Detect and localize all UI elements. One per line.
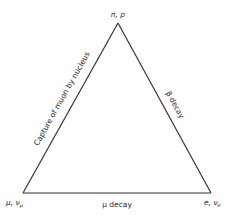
vertex-top-label: n, p xyxy=(111,10,126,19)
vertex-bottom-left-label: μ, νμ xyxy=(5,198,23,209)
edge-right-label: β decay xyxy=(164,90,186,121)
edge-right xyxy=(118,23,211,193)
vertex-bottom-left-main: μ, ν xyxy=(5,198,20,207)
vertex-bottom-right-label: e, νe xyxy=(204,198,221,208)
particle-triangle-diagram: n, p μ, νμ e, νe Capture of muon by nucl… xyxy=(0,0,231,220)
edge-left-label: Capture of muon by nucleus xyxy=(32,50,92,147)
edge-left xyxy=(23,23,118,193)
vertex-bottom-right-main: e, ν xyxy=(204,198,218,207)
vertex-bottom-right-subscript: e xyxy=(218,202,221,208)
vertex-bottom-left-subscript: μ xyxy=(19,202,23,209)
edge-bottom-label: μ decay xyxy=(102,200,132,209)
